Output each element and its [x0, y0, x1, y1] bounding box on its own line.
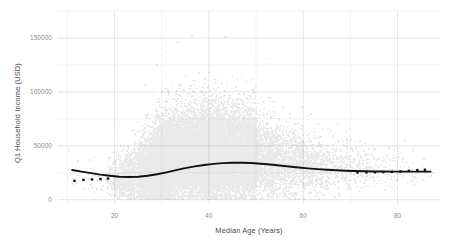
y-tick-label-100000: 100000: [8, 88, 52, 95]
y-tick-label-150000: 150000: [8, 34, 52, 41]
y-tick-label-0: 0: [8, 196, 52, 203]
x-tick-label-60: 60: [289, 212, 317, 219]
scatter-plot-figure: [0, 0, 458, 244]
x-tick-label-20: 20: [101, 212, 129, 219]
x-tick-label-40: 40: [195, 212, 223, 219]
x-tick-label-80: 80: [384, 212, 412, 219]
y-tick-label-50000: 50000: [8, 142, 52, 149]
x-axis-label: Median Age (Years): [179, 226, 319, 235]
